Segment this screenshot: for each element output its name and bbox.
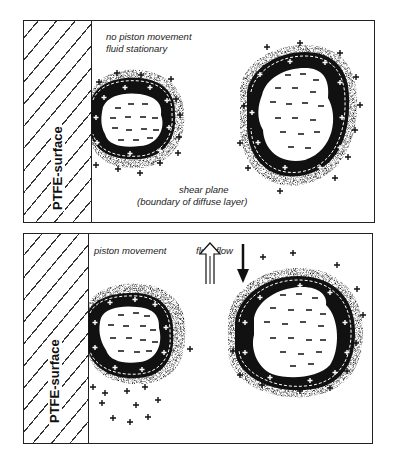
piston-up-arrow-icon: [200, 243, 220, 284]
fluid-down-arrow-icon: [237, 244, 249, 283]
particle-diagram: [0, 0, 395, 458]
particle-bottom-left: [88, 284, 185, 384]
particle-top-right: [240, 45, 357, 186]
particle-bottom-right: [228, 268, 363, 397]
particle-top-left: [91, 70, 184, 168]
